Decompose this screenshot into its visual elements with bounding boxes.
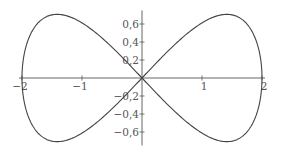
x-tick-label: −2 <box>12 80 27 92</box>
y-tick-label: −0,4 <box>114 108 140 120</box>
y-tick-label: 0,6 <box>122 18 139 30</box>
x-tick-label: −1 <box>72 80 87 92</box>
chart: −2−1120,60,40,2−0,2−0,4−0,6 <box>0 0 284 150</box>
y-tick-label: −0,2 <box>114 90 140 102</box>
y-tick-label: 0,4 <box>122 36 139 48</box>
x-tick-label: 1 <box>201 80 208 92</box>
y-tick-label: −0,6 <box>114 126 140 138</box>
